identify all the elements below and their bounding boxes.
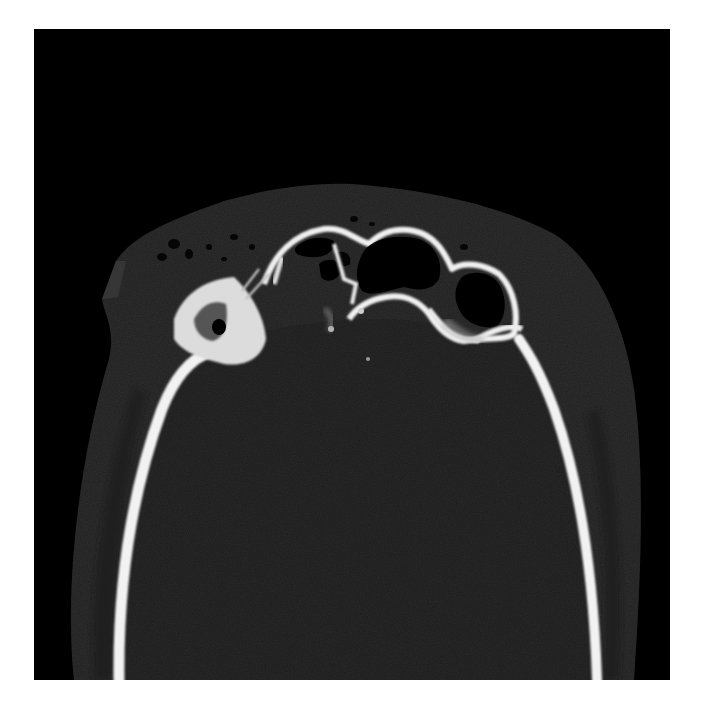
ct-image-frame [34, 29, 670, 680]
ct-scan [34, 29, 670, 680]
